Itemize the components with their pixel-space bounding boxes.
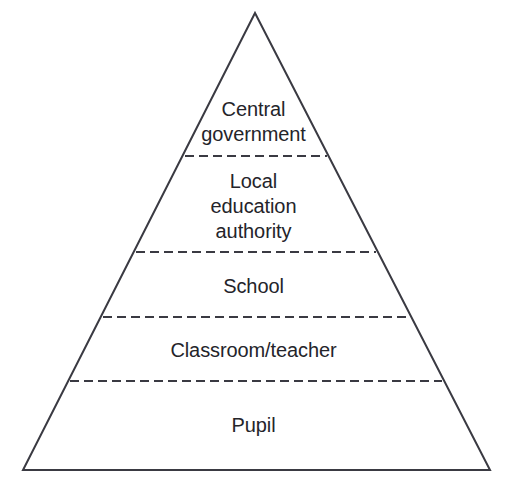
pyramid-triangle-outline [23, 13, 490, 470]
pyramid-diagram: Central government Local education autho… [0, 0, 507, 489]
pyramid-outline-svg [0, 0, 507, 489]
